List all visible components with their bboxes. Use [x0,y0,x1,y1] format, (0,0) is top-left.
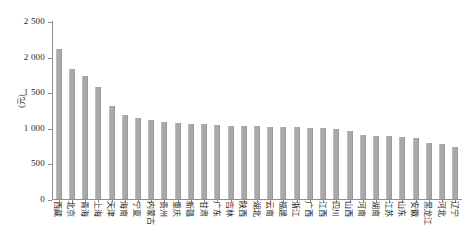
x-axis-category-label: 湖南 [371,201,380,217]
plot-area [52,21,462,200]
bar [188,124,194,199]
bar [69,69,75,199]
x-axis-category-label: 湖北 [252,201,261,217]
bar [347,131,353,199]
y-axis-tick-label: 1 000 [24,124,45,133]
bar [201,124,207,199]
x-axis-category-label: 海南 [119,201,128,217]
bar [175,123,181,199]
x-axis-category-label: 福建 [278,201,287,217]
x-axis-category-label: 山东 [397,201,406,217]
bar [360,135,366,199]
bar [109,106,115,199]
bar [267,127,273,199]
x-axis-category-label: 江西 [318,201,327,217]
bar [320,128,326,199]
bar [413,138,419,199]
x-axis-category-label: 云南 [265,201,274,217]
bar [373,136,379,199]
bar [307,128,313,199]
x-axis-category-label: 上海 [93,201,102,217]
bar [82,76,88,199]
x-axis-category-label: 山西 [344,201,353,217]
y-axis-tick-label: 2 000 [24,53,45,62]
x-axis-category-label: 安徽 [410,201,419,217]
bar [56,49,62,199]
y-axis-tick-labels: 05001 0001 5002 0002 500 [0,0,48,250]
x-axis-category-label: 黑龙江 [423,201,432,225]
x-axis-category-label: 贵州 [159,201,168,217]
bar [148,120,154,199]
bar [95,87,101,199]
x-axis-category-label: 天津 [106,201,115,217]
bar [122,115,128,199]
bar [280,127,286,199]
x-axis-category-label: 广东 [212,201,221,217]
bar [439,144,445,199]
x-axis-category-label: 宁夏 [132,201,141,217]
x-axis-category-label: 陕西 [238,201,247,217]
bar [294,127,300,199]
bar [254,126,260,199]
bar [333,129,339,199]
bar [399,137,405,199]
x-axis-category-label: 新疆 [185,201,194,217]
x-axis-category-label: 甘肃 [199,201,208,217]
bar [386,136,392,199]
bar [426,143,432,199]
x-axis-category-labels: 西藏北京青海上海天津海南宁夏内蒙古贵州重庆新疆甘肃广东吉林陕西湖北云南福建浙江广… [52,201,462,250]
x-axis-category-label: 北京 [66,201,75,217]
x-axis-category-label: 辽宁 [450,201,459,217]
x-axis-category-label: 青海 [80,201,89,217]
x-axis-category-label: 内蒙古 [146,201,155,225]
x-axis-category-label: 西藏 [53,201,62,217]
x-axis-category-label: 四川 [331,201,340,217]
x-axis-category-label: 河北 [437,201,446,217]
bar-chart: (元) 05001 0001 5002 0002 500 西藏北京青海上海天津海… [0,0,466,250]
x-axis-category-label: 重庆 [172,201,181,217]
y-axis-tick-label: 0 [40,195,45,204]
y-axis-tick-label: 2 500 [24,17,45,26]
bar [452,147,458,199]
bars-layer [52,21,462,200]
x-axis-category-label: 广西 [304,201,313,217]
x-axis-category-label: 江苏 [384,201,393,217]
bar [214,125,220,199]
bar [161,122,167,199]
bar [135,118,141,199]
x-axis-category-label: 浙江 [291,201,300,217]
x-axis-category-label: 吉林 [225,201,234,217]
x-axis-category-label: 河南 [357,201,366,217]
y-axis-tick-label: 1 500 [24,88,45,97]
y-axis-tick-label: 500 [31,159,45,168]
bar [228,126,234,199]
bar [241,126,247,199]
